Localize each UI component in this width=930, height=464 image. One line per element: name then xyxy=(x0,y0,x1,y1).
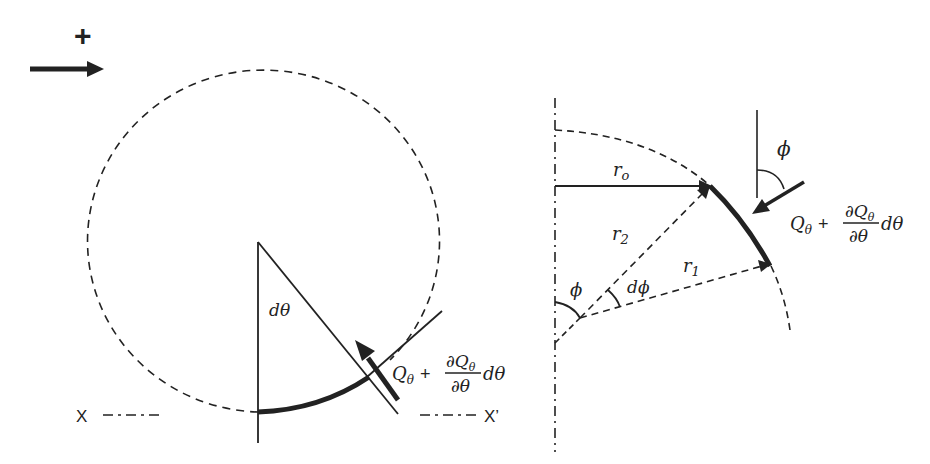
formula-plus: + xyxy=(818,214,829,234)
svg-text:∂Qθ: ∂Qθ xyxy=(845,201,875,224)
thick-element-arc xyxy=(258,377,369,412)
label-phi-axis: ϕ xyxy=(570,279,582,300)
arrowhead-icon xyxy=(87,61,104,77)
label-r0: ro xyxy=(613,159,630,183)
angle-phi-force-arc xyxy=(757,170,784,189)
label-r2: r2 xyxy=(612,223,629,247)
meridional-force-arrow xyxy=(764,182,804,206)
sign-convention: + xyxy=(30,19,104,77)
axis-x-label: X xyxy=(76,407,87,426)
thick-shell-element xyxy=(710,186,770,266)
formula-denominator: ∂θ xyxy=(451,376,470,396)
meridional-force-arrowhead-icon xyxy=(752,199,770,214)
plus-sign: + xyxy=(74,19,92,52)
axis-x-prime-label: X’ xyxy=(484,407,499,426)
label-dphi: dϕ xyxy=(627,277,650,297)
inclined-radius-line xyxy=(258,242,398,414)
normal-extension-dashed xyxy=(555,318,580,343)
svg-text:∂Qθ: ∂Qθ xyxy=(446,351,476,374)
label-phi-force: ϕ xyxy=(777,137,791,161)
svg-text:∂θ: ∂θ xyxy=(849,226,868,246)
angle-dtheta-label: dθ xyxy=(269,300,290,320)
angle-dphi-arc xyxy=(608,290,620,307)
formula-numerator-sub: θ xyxy=(469,361,476,374)
angle-phi-arc xyxy=(555,302,580,318)
formula-numerator: ∂Q xyxy=(446,351,469,371)
svg-text:Qθ: Qθ xyxy=(790,213,813,237)
shear-force-arrowhead-icon xyxy=(355,340,375,361)
left-figure: + dθ Qθ + ∂Qθ ∂θ dθ xyxy=(30,19,506,443)
radius-r1-line xyxy=(580,266,762,318)
meridian-dashed-arc-lower xyxy=(771,266,790,330)
svg-text:Qθ: Qθ xyxy=(392,363,415,387)
diagram-canvas: + dθ Qθ + ∂Qθ ∂θ dθ xyxy=(0,0,930,464)
meridian-dashed-arc-upper xyxy=(555,130,708,184)
svg-text:dθ: dθ xyxy=(881,213,904,234)
right-force-formula: Qθ + ∂Qθ ∂θ dθ xyxy=(790,201,904,246)
formula-Q: Q xyxy=(392,363,407,384)
formula-Q-sub: θ xyxy=(407,373,415,387)
right-figure: ro r2 r1 ϕ dϕ ϕ Qθ + ∂Qθ ∂θ dθ xyxy=(555,98,904,452)
formula-plus: + xyxy=(420,364,431,384)
label-r1: r1 xyxy=(683,255,700,279)
left-force-formula: Qθ + ∂Qθ ∂θ dθ xyxy=(392,351,506,396)
formula-dtheta: dθ xyxy=(483,363,506,384)
